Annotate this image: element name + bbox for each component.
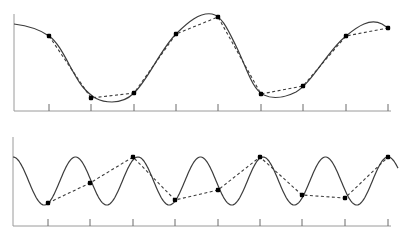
sample-point [173,198,177,202]
sample-point [344,34,348,38]
top-panel [14,14,391,111]
sample-point [46,201,50,205]
sample-point [259,92,263,96]
sample-point [47,34,51,38]
bottom-sample-interpolation [48,157,388,203]
top-x-ticks [49,104,388,111]
sample-point [132,91,136,95]
sample-point [301,84,305,88]
sample-point [88,181,92,185]
sample-point [216,15,220,19]
sample-point [131,155,135,159]
sample-point [343,196,347,200]
top-sample-points [47,15,390,100]
sample-point [89,96,93,100]
diagram-canvas [0,0,407,238]
sample-point [258,155,262,159]
bottom-x-ticks [48,219,388,226]
sample-point [386,26,390,30]
sample-point [216,188,220,192]
top-sample-interpolation [49,17,388,98]
sampling-diagram [0,0,407,238]
sample-point [300,193,304,197]
sample-point [386,155,390,159]
top-signal-curve [14,14,388,102]
bottom-panel [13,137,398,226]
sample-point [174,32,178,36]
